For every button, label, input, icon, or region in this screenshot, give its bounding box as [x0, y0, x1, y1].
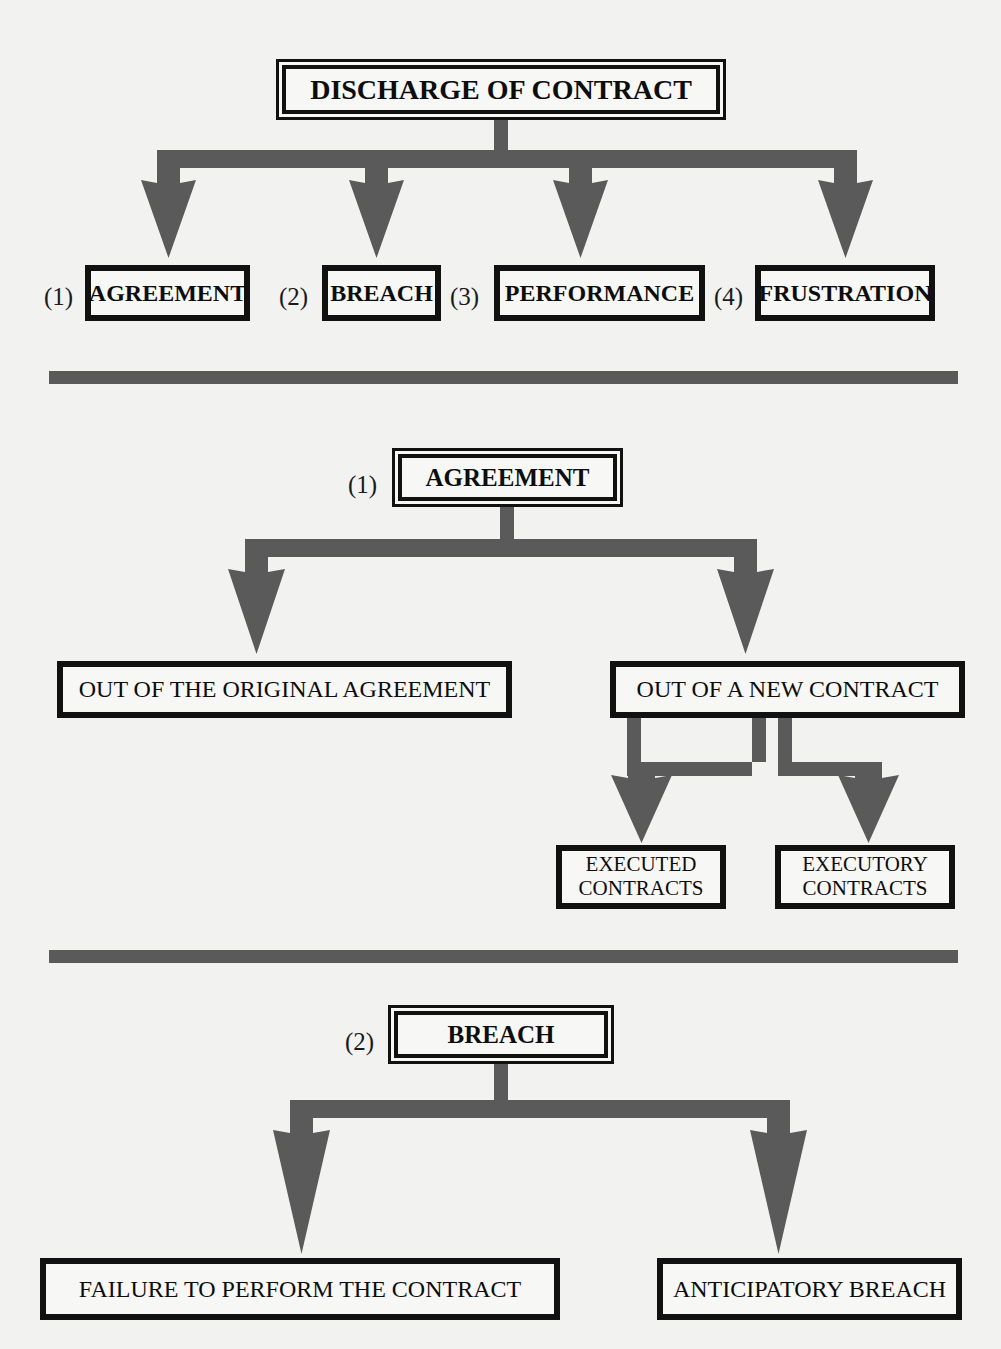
box-breach-root-label: BREACH [394, 1011, 608, 1058]
box-anticipatory-breach: ANTICIPATORY BREACH [657, 1258, 962, 1320]
number-label-breach-section: (2) [345, 1029, 374, 1054]
box-executed-contracts: EXECUTED CONTRACTS [556, 845, 726, 909]
connector-breach-to-children [0, 1064, 1001, 1264]
box-agreement-root-label: AGREEMENT [398, 454, 617, 501]
box-discharge-of-contract-label: DISCHARGE OF CONTRACT [282, 65, 720, 114]
box-executed-contracts-line2: CONTRACTS [579, 877, 704, 901]
box-executory-contracts-line2: CONTRACTS [803, 877, 928, 901]
box-breach: BREACH [322, 265, 441, 321]
box-performance: PERFORMANCE [494, 265, 705, 321]
box-out-of-original-agreement: OUT OF THE ORIGINAL AGREEMENT [57, 661, 512, 718]
section-divider-1 [49, 371, 958, 384]
box-agreement: AGREEMENT [85, 265, 250, 321]
number-label-frustration: (4) [714, 284, 743, 309]
box-out-of-new-contract: OUT OF A NEW CONTRACT [610, 661, 965, 718]
number-label-agreement-section: (1) [348, 472, 377, 497]
number-label-performance: (3) [450, 284, 479, 309]
connector-new-contract-to-grandchildren [0, 718, 1001, 848]
box-frustration: FRUSTRATION [755, 265, 935, 321]
number-label-breach: (2) [279, 284, 308, 309]
box-failure-to-perform: FAILURE TO PERFORM THE CONTRACT [40, 1258, 560, 1320]
box-executory-contracts-line1: EXECUTORY [802, 853, 928, 877]
connector-root-to-categories [0, 118, 1001, 263]
box-executory-contracts: EXECUTORY CONTRACTS [775, 845, 955, 909]
box-breach-root: BREACH [388, 1005, 614, 1064]
box-executed-contracts-line1: EXECUTED [586, 853, 697, 877]
section-divider-2 [49, 950, 958, 963]
box-agreement-root: AGREEMENT [392, 448, 623, 507]
number-label-agreement: (1) [44, 284, 73, 309]
diagram-canvas: DISCHARGE OF CONTRACT (1) AGREEMENT (2) … [0, 0, 1001, 1349]
box-discharge-of-contract: DISCHARGE OF CONTRACT [276, 59, 726, 120]
connector-agreement-to-children [0, 507, 1001, 657]
